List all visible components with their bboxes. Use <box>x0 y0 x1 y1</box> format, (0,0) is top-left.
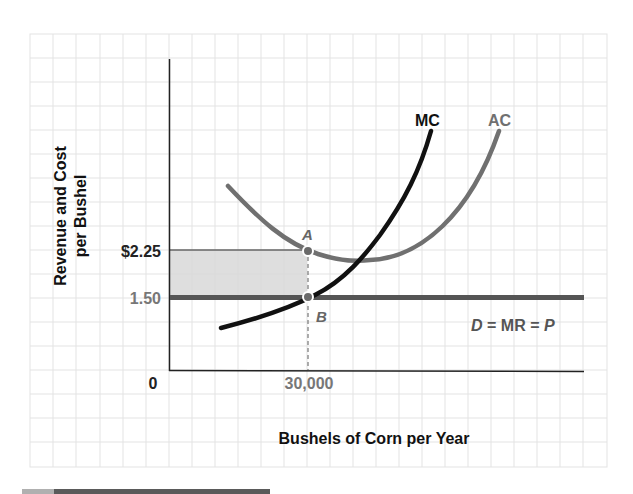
demand-label-p: P <box>544 317 555 334</box>
cost-revenue-diagram: A B MC AC D = MR = P $2.25 1.50 0 30,000… <box>0 0 633 494</box>
shaded-loss-area <box>170 250 307 297</box>
x-axis-label: Bushels of Corn per Year <box>279 430 470 447</box>
y-tick-225: $2.25 <box>121 243 161 260</box>
point-b-label: B <box>316 308 327 325</box>
background-grid <box>30 34 607 467</box>
origin-label: 0 <box>149 375 158 392</box>
x-axis <box>169 371 584 372</box>
bottom-bar <box>54 489 270 494</box>
mc-label: MC <box>415 112 440 129</box>
demand-label: D = MR = P <box>471 317 555 334</box>
point-b-marker <box>303 292 313 302</box>
x-tick-30000: 30,000 <box>285 375 334 392</box>
point-a-label: A <box>301 226 313 243</box>
ac-label: AC <box>488 112 512 129</box>
y-axis-label-line2: per Bushel <box>72 175 89 258</box>
y-axis-label-line1: Revenue and Cost <box>52 146 69 286</box>
y-tick-150: 1.50 <box>130 290 161 307</box>
demand-label-d: D <box>471 317 483 334</box>
bottom-bar-accent <box>22 489 54 494</box>
demand-label-mid: = MR = <box>483 317 544 334</box>
point-a-marker <box>303 246 313 256</box>
